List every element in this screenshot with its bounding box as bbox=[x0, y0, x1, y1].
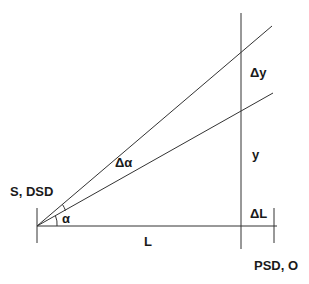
alpha-label: α bbox=[62, 211, 70, 226]
delta-alpha-arc bbox=[63, 205, 66, 211]
source-label: S, DSD bbox=[10, 184, 53, 199]
geometry-diagram: S, DSD α Δα L ΔL y Δy PSD, O bbox=[0, 0, 309, 284]
y-label: y bbox=[252, 147, 260, 162]
lower-ray bbox=[37, 93, 273, 226]
detector-label: PSD, O bbox=[254, 258, 298, 273]
delta-L-label: ΔL bbox=[250, 206, 267, 221]
L-label: L bbox=[144, 234, 152, 249]
delta-alpha-label: Δα bbox=[115, 155, 132, 170]
upper-ray bbox=[37, 26, 272, 226]
alpha-arc bbox=[56, 216, 58, 226]
delta-y-label: Δy bbox=[250, 65, 267, 80]
